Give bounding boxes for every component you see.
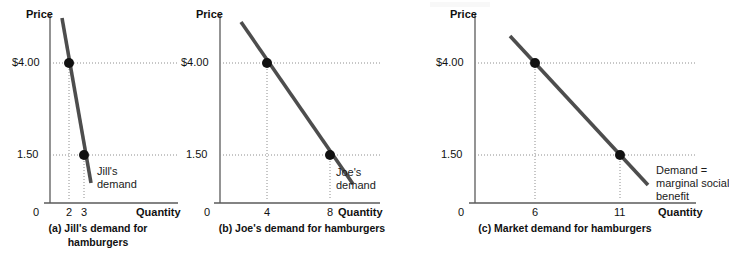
x-axis-title: Quantity (658, 206, 703, 219)
panel-b-caption-line1: (b) Joe's demand for hamburgers (219, 222, 385, 234)
panel-market-demand: Price Quantity 0 $4.00 1.50 6 11 Demand … (420, 0, 729, 257)
y-axis-title: Price (26, 8, 53, 21)
panel-a-caption-line1: (a) Jill's demand for (49, 222, 148, 234)
x-tick-6: 6 (532, 206, 538, 219)
data-point-6-400 (530, 58, 540, 68)
data-point-2-400 (64, 58, 74, 68)
panel-a-caption: (a) Jill's demand for hamburgers (0, 222, 196, 249)
curve-label-market-line1: Demand = (656, 164, 707, 177)
origin-label: 0 (33, 206, 39, 219)
data-point-4-400 (262, 58, 272, 68)
curve-label-market-line2: marginal social (656, 177, 729, 190)
y-tick-400: $4.00 (181, 56, 209, 69)
curve-label-jill-line1: Jill's (97, 165, 117, 178)
demand-curve-joe (241, 22, 353, 184)
y-axis-title: Price (450, 8, 477, 21)
y-tick-150: 1.50 (17, 148, 38, 161)
x-tick-11: 11 (614, 206, 625, 219)
panel-c-caption: (c) Market demand for hamburgers (445, 222, 685, 236)
origin-label: 0 (458, 206, 464, 219)
origin-label: 0 (204, 206, 210, 219)
data-point-3-150 (79, 150, 89, 160)
curve-label-joe-line2: demand (336, 179, 376, 192)
panel-a-caption-line2: hamburgers (68, 236, 129, 248)
x-tick-4: 4 (264, 206, 270, 219)
panel-joes-demand: Price Quantity 0 $4.00 1.50 4 8 Joe's de… (205, 0, 410, 257)
panel-jills-demand: Price Quantity 0 $4.00 1.50 2 3 Jill's d… (0, 0, 210, 257)
y-tick-400: $4.00 (436, 56, 464, 69)
y-tick-150: 1.50 (441, 148, 462, 161)
y-tick-400: $4.00 (12, 56, 40, 69)
x-tick-2: 2 (66, 206, 72, 219)
curve-label-market-line3: benefit (656, 190, 689, 203)
x-axis-title: Quantity (136, 206, 181, 219)
data-point-11-150 (615, 150, 625, 160)
panel-b-caption: (b) Joe's demand for hamburgers (202, 222, 402, 236)
demand-curve-market (510, 36, 648, 185)
data-point-8-150 (325, 150, 335, 160)
curve-label-jill-line2: demand (97, 178, 137, 191)
panel-c-caption-line1: (c) Market demand for hamburgers (478, 222, 651, 234)
demand-curves-figure: Price Quantity 0 $4.00 1.50 2 3 Jill's d… (0, 0, 729, 257)
curve-label-joe-line1: Joe's (336, 166, 361, 179)
x-axis-title: Quantity (338, 206, 383, 219)
x-tick-3: 3 (81, 206, 87, 219)
y-axis-title: Price (196, 8, 223, 21)
y-tick-150: 1.50 (186, 148, 207, 161)
x-tick-8: 8 (327, 206, 333, 219)
